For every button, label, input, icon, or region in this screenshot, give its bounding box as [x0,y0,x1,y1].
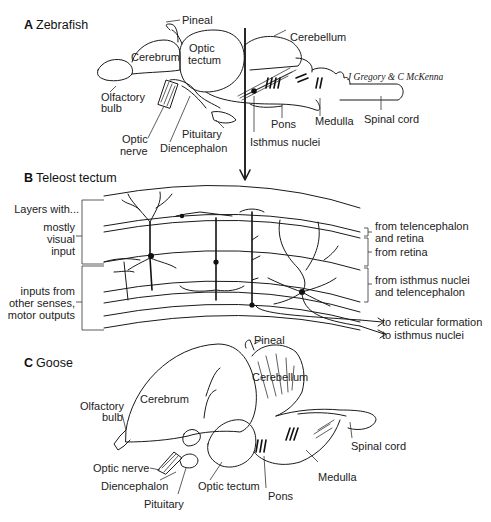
a-label-optic-nerve-2: nerve [120,145,148,157]
b-label-layers-header: Layers with... [14,203,79,215]
panel-b-letter: B [24,171,33,185]
panel-c-name: Goose [36,356,73,370]
panel-c-letter: C [24,356,33,370]
c-label-spinal-cord: Spinal cord [351,440,406,452]
b-label-visual-2: visual [47,233,75,245]
a-label-diencephalon: Diencephalon [160,142,227,154]
panel-b-name: Teleost tectum [36,171,117,185]
c-label-pineal: Pineal [254,334,285,346]
c-label-cerebellum: Cerebellum [252,371,308,383]
b-label-to-reticular-formation: to reticular formation [382,316,482,328]
panel-b-title: BTeleost tectum [24,171,117,185]
b-label-isthmus-2: and telencephalon [375,286,465,298]
b-label-other-1: inputs from [21,285,75,297]
section-arrow [240,28,250,180]
c-label-optic-tectum: Optic tectum [198,480,260,492]
c-label-diencephalon: Diencephalon [101,480,168,492]
illustration-credit: J Gregory & C McKenna [347,72,443,82]
a-label-medulla: Medulla [315,115,354,127]
panel-c-title: CGoose [24,356,73,370]
tectum-layers-drawing [76,185,386,338]
b-label-retina: from retina [375,246,428,258]
a-label-optic-tectum-1: Optic [189,42,215,54]
c-label-optic-nerve: Optic nerve [93,462,149,474]
b-label-other-3: motor outputs [8,309,75,321]
a-label-pons: Pons [271,118,296,130]
b-label-telencephalon-retina-2: and retina [375,232,424,244]
c-label-cerebrum: Cerebrum [140,393,189,405]
panel-a-letter: A [24,18,33,32]
b-label-visual-3: input [51,245,75,257]
b-label-to-isthmus-nuclei: to isthmus nuclei [382,329,464,341]
a-label-pineal: Pineal [182,14,213,26]
c-label-olfactory-bulb-2: bulb [102,411,123,423]
a-label-cerebrum: Cerebrum [131,51,180,63]
b-label-other-2: other senses, [9,297,75,309]
a-label-olfactory-bulb-2: bulb [101,102,122,114]
c-label-pituitary: Pituitary [144,498,184,510]
b-label-isthmus-1: from isthmus nuclei [375,274,470,286]
b-label-telencephalon-retina-1: from telencephalon [375,220,469,232]
a-label-optic-nerve-1: Optic [122,133,148,145]
figure-canvas: AZebrafish Pineal Cerebrum Optic tectum … [0,0,491,522]
panel-a-name: Zebrafish [36,18,88,32]
c-label-medulla: Medulla [318,471,357,483]
c-label-pons: Pons [268,490,293,502]
a-label-isthmus-nuclei: Isthmus nuclei [250,136,320,148]
a-label-cerebellum: Cerebellum [290,31,346,43]
panel-a-title: AZebrafish [24,18,88,32]
a-label-spinal-cord: Spinal cord [364,113,419,125]
a-label-pituitary: Pituitary [182,128,222,140]
b-label-visual-1: mostly [43,221,75,233]
a-label-optic-tectum-2: tectum [188,54,221,66]
